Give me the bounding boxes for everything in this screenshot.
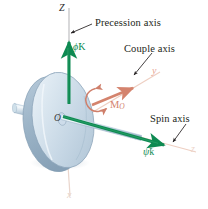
annotation-precession-axis: Precession axis <box>95 18 161 29</box>
point-label-origin: O <box>54 114 61 124</box>
leader-spin <box>173 124 186 142</box>
leader-couple <box>134 53 152 75</box>
leader-precession <box>71 24 92 33</box>
vector-label-couple-moment: MO <box>110 100 125 111</box>
precession-vector-arrow <box>68 42 69 104</box>
vector-label-spin: ψ̇k <box>143 147 154 157</box>
axis-label-Z: Z <box>59 3 65 13</box>
vector-unit-k: k <box>149 146 154 157</box>
axis-label-z: z <box>191 144 195 154</box>
gyroscope-figure: Z x y z Precession axis Couple axis Spin… <box>0 0 208 209</box>
vector-unit-K: K <box>78 41 85 52</box>
axis-label-x: x <box>67 190 71 200</box>
annotation-couple-axis: Couple axis <box>124 44 175 55</box>
moment-symbol-M: M <box>110 99 119 110</box>
figure-canvas <box>0 0 208 209</box>
annotation-spin-axis: Spin axis <box>150 114 190 125</box>
vector-label-precession: ϕ̇K <box>73 42 85 52</box>
axis-label-y: y <box>152 66 156 76</box>
moment-subscript-O: O <box>119 102 124 111</box>
